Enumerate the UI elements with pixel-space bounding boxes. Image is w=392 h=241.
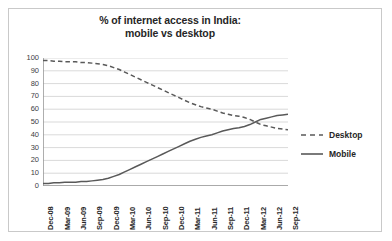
series-lines	[43, 58, 288, 186]
x-tick-label: Sep-10	[161, 190, 170, 230]
x-tick-label: Mar-09	[63, 190, 72, 230]
chart-container: % of internet access in India: mobile vs…	[0, 0, 392, 241]
y-tick-label: 50	[12, 118, 39, 126]
chart-title: % of internet access in India: mobile vs…	[40, 14, 300, 40]
legend-label-mobile: Mobile	[329, 149, 356, 159]
x-tick-label: Sep-09	[95, 190, 104, 230]
y-tick-label: 100	[12, 54, 39, 62]
y-tick-label: 10	[12, 169, 39, 177]
y-tick-label: 90	[12, 67, 39, 75]
x-tick-label: Jun-10	[144, 190, 153, 230]
x-tick-label: Mar-10	[128, 190, 137, 230]
chart-title-line-1: % of internet access in India:	[40, 14, 300, 27]
x-tick-label: Dec-10	[177, 190, 186, 230]
x-tick-label: Dec-09	[112, 190, 121, 230]
x-tick-label: Dec-08	[46, 190, 55, 230]
y-tick-label: 20	[12, 156, 39, 164]
x-tick-label: Mar-11	[193, 190, 202, 230]
legend-label-desktop: Desktop	[329, 130, 363, 140]
x-tick-label: Dec-11	[242, 190, 251, 230]
x-tick-label: Sep-12	[291, 190, 300, 230]
y-tick-label: 70	[12, 92, 39, 100]
y-tick-label: 30	[12, 144, 39, 152]
legend-swatch-mobile	[300, 149, 324, 159]
y-tick-label: 40	[12, 131, 39, 139]
legend-item-desktop: Desktop	[300, 128, 363, 141]
y-tick-label: 0	[12, 182, 39, 190]
x-tick-label: Mar-12	[259, 190, 268, 230]
x-tick-label: Jun-12	[275, 190, 284, 230]
y-tick-label: 80	[12, 80, 39, 88]
chart-title-line-2: mobile vs desktop	[40, 27, 300, 40]
y-axis-labels: 1009080706050403020100	[12, 52, 39, 192]
x-tick-label: Jun-09	[79, 190, 88, 230]
legend-item-mobile: Mobile	[300, 147, 356, 160]
x-axis-labels: Dec-08Mar-09Jun-09Sep-09Dec-09Mar-10Jun-…	[43, 188, 289, 232]
x-tick-label: Sep-11	[226, 190, 235, 230]
legend-swatch-desktop	[300, 130, 324, 140]
chart-legend: Desktop Mobile	[300, 128, 378, 160]
plot-area	[43, 58, 288, 186]
x-tick-label: Jun-11	[210, 190, 219, 230]
y-tick-label: 60	[12, 105, 39, 113]
